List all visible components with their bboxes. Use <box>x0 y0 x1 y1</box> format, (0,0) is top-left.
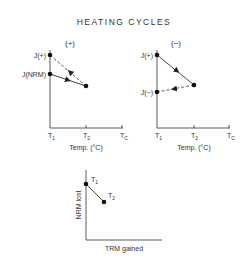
left-plot: (+) J(+) J(NRM) T1 T2 TC Temp. (°C) <box>22 39 128 152</box>
bottom-path <box>86 184 104 202</box>
bottom-ylabel: NRM lost <box>75 191 82 220</box>
bottom-label-t2: T2 <box>108 192 115 201</box>
left-point-j-nrm <box>48 72 53 77</box>
left-tick-t2: T2 <box>83 132 90 141</box>
right-point-j-minus <box>155 90 160 95</box>
left-tick-tc: TC <box>120 132 128 141</box>
right-tick-tc: TC <box>227 132 235 141</box>
left-label-j-plus: J(+) <box>34 52 46 60</box>
left-label-j-nrm: J(NRM) <box>22 71 46 79</box>
left-point-j-plus <box>48 53 53 58</box>
bottom-xlabel: TRM gained <box>105 245 143 253</box>
right-point-j-plus <box>155 53 160 58</box>
left-xlabel: Temp. (°C) <box>69 144 103 152</box>
bottom-point-t1 <box>84 182 89 187</box>
right-point-end <box>192 83 197 88</box>
left-point-end <box>84 84 89 89</box>
left-plot-sign: (+) <box>65 39 75 48</box>
bottom-label-t1: T1 <box>91 176 98 185</box>
right-xlabel: Temp. (°C) <box>177 144 211 152</box>
right-label-j-plus: J(+) <box>141 52 153 60</box>
bottom-plot: T1 T2 NRM lost TRM gained <box>75 170 162 253</box>
right-plot-sign: (−) <box>171 39 181 48</box>
right-solid-path <box>157 55 194 85</box>
bottom-point-t2 <box>102 200 107 205</box>
left-tick-t1: T1 <box>48 132 55 141</box>
diagram-title: HEATING CYCLES <box>77 17 172 27</box>
right-tick-t1: T1 <box>155 132 162 141</box>
right-label-j-minus: J(−) <box>141 89 153 97</box>
right-tick-t2: T2 <box>191 132 198 141</box>
right-dashed-path <box>157 85 194 92</box>
left-dashed-path <box>50 55 86 86</box>
heating-cycles-diagram: HEATING CYCLES (+) J(+) J(NRM) T1 T2 TC … <box>0 0 247 262</box>
right-plot: (−) J(+) J(−) T1 T2 TC Temp. (°C) <box>141 39 236 152</box>
